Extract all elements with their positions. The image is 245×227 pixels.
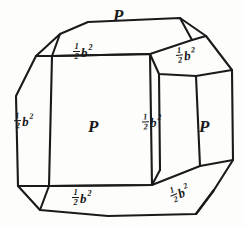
crystal-outline-svg [0, 0, 245, 227]
front-face-edge [49, 54, 152, 186]
label-top-face-p: P [113, 7, 124, 24]
label-top-bevel: 1 2 b 2 [73, 43, 93, 61]
fraction-one-half: 1 2 [73, 43, 80, 61]
label-exponent: 2 [157, 113, 161, 121]
fraction-one-half: 1 2 [72, 189, 79, 207]
bottom-left-bevel-edge [40, 186, 49, 210]
label-base: b [150, 116, 157, 129]
crystal-figure: P 1 2 b 2 1 2 b 2 1 2 b 2 P 1 2 [0, 0, 245, 227]
label-right-face-p: P [199, 118, 210, 135]
label-base: b [183, 48, 191, 62]
fraction-one-half: 1 2 [142, 113, 150, 131]
bottom-right-facet-edge-c [196, 190, 214, 214]
bottom-face-inner-edge [49, 170, 160, 186]
label-right-bevel: 1 2 b 2 [142, 113, 162, 132]
label-base: b [22, 115, 29, 128]
label-bottom-bevel: 1 2 b 2 [72, 189, 92, 207]
label-exponent: 2 [29, 112, 33, 120]
label-front-face-p: P [88, 118, 99, 135]
label-top-right-bevel: 1 2 b 2 [175, 45, 196, 65]
top-right-facet-edge [192, 36, 206, 40]
bottom-right-facet-edge-b [200, 160, 233, 166]
fraction-one-half: 1 2 [14, 112, 22, 130]
label-base: b [81, 46, 88, 59]
label-exponent: 2 [88, 190, 92, 198]
label-left-bevel: 1 2 b 2 [14, 112, 34, 130]
label-exponent: 2 [89, 44, 93, 52]
label-exponent: 2 [191, 46, 196, 54]
label-base: b [80, 192, 87, 205]
